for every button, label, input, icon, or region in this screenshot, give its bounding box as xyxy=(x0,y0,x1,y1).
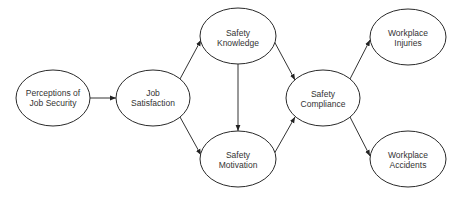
node-safety-knowledge: Safety Knowledge xyxy=(200,8,276,64)
edge-satisfaction-to-knowledge xyxy=(180,40,201,79)
edge-motivation-to-compliance xyxy=(274,117,295,154)
node-label-line2: Compliance xyxy=(301,99,346,109)
node-workplace-injuries: Workplace Injuries xyxy=(370,9,446,65)
path-diagram: Perceptions of Job Security Job Satisfac… xyxy=(0,0,462,197)
node-label-line2: Accidents xyxy=(390,160,427,170)
edge-knowledge-to-compliance xyxy=(274,41,295,80)
node-label-line2: Injuries xyxy=(394,38,421,48)
node-label-line1: Workplace xyxy=(388,28,428,38)
node-job-satisfaction: Job Satisfaction xyxy=(116,70,190,126)
node-label-line1: Workplace xyxy=(388,150,428,160)
node-label-line2: Satisfaction xyxy=(131,98,175,108)
node-label-line1: Perceptions of xyxy=(26,88,81,98)
node-perceptions-of-job-security: Perceptions of Job Security xyxy=(16,70,90,126)
node-workplace-accidents: Workplace Accidents xyxy=(370,131,446,187)
edge-compliance-to-injuries xyxy=(350,40,370,79)
node-safety-compliance: Safety Compliance xyxy=(286,70,360,126)
node-label-line2: Job Security xyxy=(30,98,78,108)
node-label-line1: Job xyxy=(146,88,160,98)
node-label-line1: Safety xyxy=(226,28,251,38)
node-safety-motivation: Safety Motivation xyxy=(200,131,276,187)
node-label-line1: Safety xyxy=(311,89,336,99)
node-label-line1: Safety xyxy=(226,150,251,160)
node-label-line2: Motivation xyxy=(219,160,258,170)
edge-satisfaction-to-motivation xyxy=(180,117,201,155)
edge-compliance-to-accidents xyxy=(350,117,370,156)
node-label-line2: Knowledge xyxy=(217,38,259,48)
